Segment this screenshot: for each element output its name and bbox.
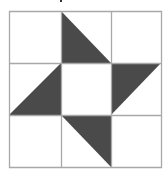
quilt-block-diagram [0,0,166,169]
block-background [9,11,161,167]
